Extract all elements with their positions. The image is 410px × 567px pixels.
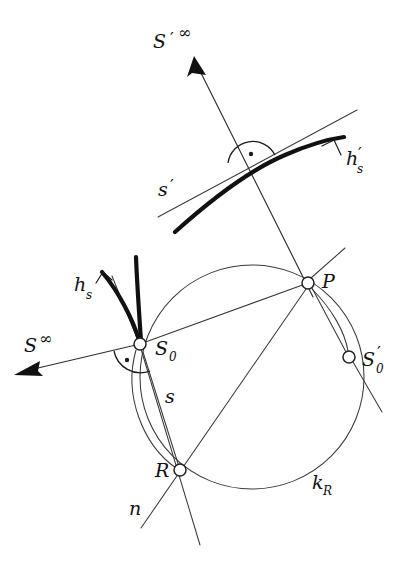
label-circle-kR-sub: R bbox=[322, 484, 332, 498]
leader-h-s-prime bbox=[334, 140, 341, 155]
node-P[interactable] bbox=[302, 277, 314, 289]
label-point-S0-prime-sub: 0 bbox=[376, 362, 384, 376]
arrowhead-s-infinity bbox=[14, 361, 43, 376]
label-line-n: n bbox=[129, 497, 141, 519]
arrowhead-s-prime-infinity bbox=[187, 56, 206, 77]
diagram-canvas: S ′ ∞ h ′ s s ′ h s S ∞ P S 0 S ′ 0 s R … bbox=[0, 0, 410, 567]
label-circle-kR-base: k bbox=[312, 471, 324, 493]
label-s-infinity-base: S bbox=[24, 334, 37, 356]
line-s-prime-infinity-ray bbox=[196, 63, 313, 297]
line-n bbox=[141, 289, 306, 528]
label-point-S0-sub: 0 bbox=[169, 350, 177, 364]
circle-kR bbox=[140, 265, 364, 489]
label-point-S0-prime-prime: ′ bbox=[377, 342, 381, 362]
label-s-prime-base: s bbox=[158, 178, 168, 200]
node-S0-prime[interactable] bbox=[343, 351, 355, 363]
label-h-s-prime-sub: s bbox=[357, 162, 363, 176]
line-s0-to-p bbox=[140, 283, 308, 344]
label-point-S0-prime-base: S bbox=[362, 348, 375, 370]
label-h-s-prime-prime: ′ bbox=[358, 143, 362, 163]
ray-p-to-s0prime bbox=[312, 288, 346, 352]
line-r-upper-left bbox=[143, 352, 180, 470]
geometry-figure: S ′ ∞ h ′ s s ′ h s S ∞ P S 0 S ′ 0 s R … bbox=[0, 0, 410, 567]
curve-h-s-prime bbox=[175, 137, 344, 232]
curve-h-s-branch-left bbox=[102, 272, 139, 340]
line-s-prime-tangent bbox=[158, 110, 357, 217]
leader-h-s bbox=[96, 272, 103, 283]
node-R[interactable] bbox=[174, 464, 186, 476]
label-point-P: P bbox=[321, 270, 336, 292]
node-S0[interactable] bbox=[134, 338, 146, 350]
arc-s0-to-r bbox=[132, 350, 176, 468]
label-line-s: s bbox=[165, 385, 175, 407]
label-h-s-base: h bbox=[74, 273, 86, 295]
label-s-prime-infinity-base: S bbox=[153, 30, 166, 52]
line-s-infinity-ray bbox=[38, 344, 140, 368]
right-angle-dot-lower bbox=[125, 358, 129, 362]
label-s-infinity-sup: ∞ bbox=[39, 329, 52, 348]
label-point-S0-base: S bbox=[155, 337, 168, 359]
right-angle-dot-upper bbox=[249, 152, 253, 156]
label-s-prime-infinity-sup: ∞ bbox=[178, 23, 191, 42]
label-s-prime-prime: ′ bbox=[170, 175, 174, 195]
label-h-s-sub: s bbox=[86, 288, 92, 302]
label-s-prime-infinity-prime: ′ bbox=[170, 28, 174, 48]
label-point-R: R bbox=[154, 459, 169, 481]
